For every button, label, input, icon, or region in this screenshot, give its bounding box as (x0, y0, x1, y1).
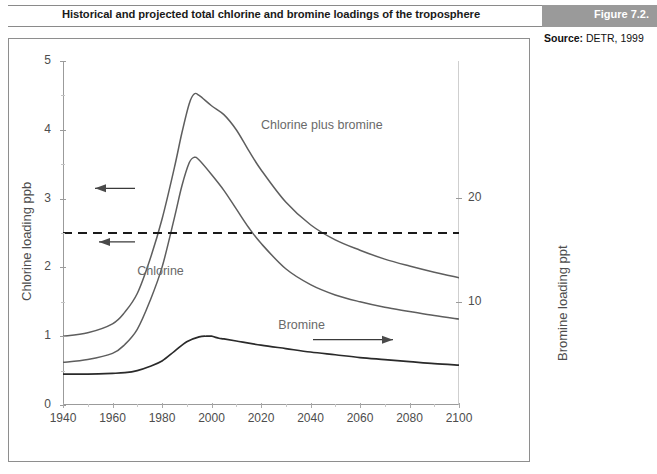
x-tick-minor (187, 404, 188, 407)
y-tick-minor-left (61, 371, 65, 372)
series-line-bromine (63, 336, 459, 374)
x-tick-minor (286, 404, 287, 407)
x-tick-label: 2000 (189, 411, 235, 425)
chlorine-label: Chlorine (137, 264, 184, 278)
x-tick-mark (212, 403, 213, 408)
x-tick-label: 2060 (337, 411, 383, 425)
x-tick-label: 1940 (40, 411, 86, 425)
y-tick-mark-left (60, 336, 66, 337)
x-tick-mark (459, 403, 460, 408)
x-tick-mark (261, 403, 262, 408)
x-tick-minor (137, 404, 138, 407)
y-tick-mark-left (60, 130, 66, 131)
x-tick-label: 2040 (288, 411, 334, 425)
y-tick-mark-right (456, 302, 462, 303)
x-tick-mark (162, 403, 163, 408)
figure-number-tab: Figure 7.2. (542, 5, 657, 27)
figure-header: Historical and projected total chlorine … (0, 5, 657, 27)
left-axis-arrow-upper (95, 184, 135, 192)
x-tick-minor (385, 404, 386, 407)
chart-canvas (63, 61, 459, 405)
x-tick-mark (311, 403, 312, 408)
page-title: Historical and projected total chlorine … (8, 8, 534, 20)
y-tick-minor-left (61, 233, 65, 234)
x-tick-label: 2020 (238, 411, 284, 425)
right-axis-arrow (313, 336, 393, 344)
x-tick-minor (434, 404, 435, 407)
header-title-strip: Historical and projected total chlorine … (8, 5, 542, 27)
source-line: Source: DETR, 1999 (544, 32, 644, 44)
chart-plot-area: 012345 1020 1940196019802000202020402060… (63, 61, 459, 405)
x-tick-label: 1960 (90, 411, 136, 425)
y-tick-mark-right (456, 198, 462, 199)
figure-number-label: Figure 7.2. (594, 8, 649, 20)
x-tick-mark (410, 403, 411, 408)
y-tick-label-right: 10 (468, 294, 498, 308)
y-axis-left-title: Chlorine loading ppb (19, 131, 34, 301)
y-tick-minor-left (61, 302, 65, 303)
x-tick-label: 1980 (139, 411, 185, 425)
x-tick-mark (63, 403, 64, 408)
left-axis-arrow-lower (99, 238, 135, 246)
chlorine-plus-bromine-label: Chlorine plus bromine (261, 118, 383, 132)
y-axis-right-title: Bromine loading ppt (555, 191, 570, 361)
x-tick-minor (236, 404, 237, 407)
y-tick-label-left: 5 (29, 53, 51, 67)
bromine-label: Bromine (278, 318, 325, 332)
x-tick-mark (360, 403, 361, 408)
y-tick-minor-left (61, 164, 65, 165)
x-tick-mark (113, 403, 114, 408)
x-tick-label: 2100 (436, 411, 482, 425)
source-key-label: Source: (544, 32, 583, 44)
y-tick-minor-left (61, 95, 65, 96)
x-tick-label: 2080 (387, 411, 433, 425)
y-tick-label-right: 20 (468, 190, 498, 204)
y-tick-mark-left (60, 267, 66, 268)
y-tick-mark-left (60, 61, 66, 62)
x-tick-minor (335, 404, 336, 407)
x-tick-minor (88, 404, 89, 407)
y-tick-label-left: 0 (29, 397, 51, 411)
source-value-label: DETR, 1999 (586, 32, 644, 44)
y-tick-label-left: 1 (29, 328, 51, 342)
y-tick-mark-left (60, 199, 66, 200)
